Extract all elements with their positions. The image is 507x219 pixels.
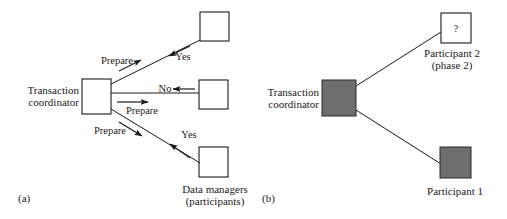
panel-b-participant-1-box bbox=[440, 147, 471, 178]
panel-b-participant-2-label-line2: (phase 2) bbox=[424, 59, 480, 71]
panel-b-coordinator-label: Transaction coordinator bbox=[267, 86, 319, 110]
panel-a-dm-middle-box bbox=[199, 80, 228, 109]
panel-b-participant-1-label-line1: Participant 1 bbox=[427, 185, 483, 197]
panel-a-edge-label-top-yes: Yes bbox=[175, 51, 190, 63]
panel-b-participant-2-label-line1: Participant 2 bbox=[424, 47, 480, 59]
two-phase-commit-figure: Transaction coordinator Prepare Yes No P… bbox=[0, 0, 507, 219]
panel-a-edge-label-bottom-prepare: Prepare bbox=[94, 125, 126, 137]
panel-a-coordinator-label-line1: Transaction bbox=[27, 84, 79, 96]
panel-b-participant-2-label: Participant 2 (phase 2) bbox=[424, 47, 480, 71]
panel-a-coordinator-box bbox=[82, 79, 111, 114]
panel-a-edge-label-middle-prepare: Prepare bbox=[126, 105, 158, 117]
panel-b-coordinator-label-line1: Transaction bbox=[267, 86, 319, 98]
panel-a-dm-bottom-box bbox=[199, 147, 228, 177]
panel-a-arrow-bottom-yes bbox=[170, 144, 190, 158]
panel-a-participants-label-line2: (participants) bbox=[182, 195, 248, 207]
panel-b-coordinator-box bbox=[322, 80, 356, 116]
panel-a-coordinator-label: Transaction coordinator bbox=[27, 84, 79, 108]
panel-a-edge-label-bottom-yes: Yes bbox=[181, 129, 196, 141]
panel-b-edge-to-participant-1 bbox=[356, 110, 441, 164]
panel-a-participants-label: Data managers (participants) bbox=[182, 183, 248, 207]
panel-b-coordinator-label-line2: coordinator bbox=[267, 98, 319, 110]
panel-a-edge-label-middle-no: No bbox=[159, 83, 172, 95]
panel-a-caption: (a) bbox=[18, 192, 30, 204]
panel-a-coordinator-label-line2: coordinator bbox=[27, 96, 79, 108]
panel-a-participants-label-line1: Data managers bbox=[182, 183, 248, 195]
panel-b-caption: (b) bbox=[262, 192, 275, 204]
panel-a-edge-label-top-prepare: Prepare bbox=[101, 55, 133, 67]
panel-b-participant-1-label: Participant 1 bbox=[427, 185, 483, 197]
panel-b-participant-2-question-mark: ? bbox=[454, 23, 458, 34]
panel-a-dm-top-box bbox=[200, 12, 229, 41]
